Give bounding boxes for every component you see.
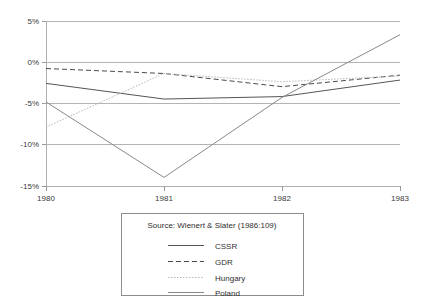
- x-label-1981: 1981: [155, 194, 173, 203]
- y-label-neg5: -5%: [25, 99, 39, 108]
- y-label-neg15: -15%: [20, 182, 39, 191]
- x-label-1980: 1980: [37, 194, 55, 203]
- legend-label-hungary: Hungary: [215, 274, 245, 283]
- x-label-1983: 1983: [391, 194, 409, 203]
- legend-label-gdr: GDR: [215, 258, 233, 267]
- x-label-1982: 1982: [273, 194, 291, 203]
- legend-label-poland: Poland: [215, 289, 240, 298]
- legend-source-note: Source: Wienert & Slater (1986:109): [148, 221, 277, 230]
- y-label-5: 5%: [27, 17, 39, 26]
- line-chart: 5% 0% -5% -10% -15% 1980 1981 1982 1983: [0, 0, 425, 308]
- y-label-neg10: -10%: [20, 140, 39, 149]
- chart-svg: 5% 0% -5% -10% -15% 1980 1981 1982 1983: [0, 0, 425, 308]
- legend-label-cssr: CSSR: [215, 242, 237, 251]
- chart-legend: Source: Wienert & Slater (1986:109) CSSR…: [122, 214, 304, 298]
- y-label-0: 0%: [27, 58, 39, 67]
